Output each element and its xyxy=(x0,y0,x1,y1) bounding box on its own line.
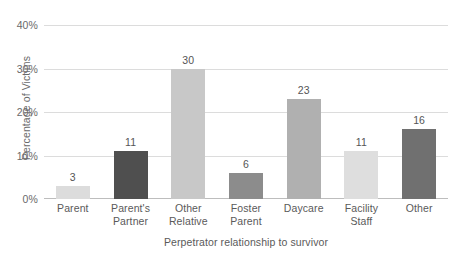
bar-group: 6 xyxy=(217,25,275,199)
bar-value-label: 30 xyxy=(182,54,194,66)
bar[interactable] xyxy=(402,129,436,199)
x-axis-title: Perpetrator relationship to survivor xyxy=(44,236,448,248)
y-axis-tick-label: 30% xyxy=(17,63,38,75)
bar[interactable] xyxy=(229,173,263,199)
bar-value-label: 23 xyxy=(298,84,310,96)
x-axis-tick-label: Foster Parent xyxy=(217,202,275,228)
y-axis-tick-labels: 0%10%20%30%40% xyxy=(0,0,44,262)
y-axis-tick-label: 0% xyxy=(23,193,38,205)
bar[interactable] xyxy=(171,69,205,200)
x-axis-tick-label: Facility Staff xyxy=(333,202,391,228)
x-axis-tick-labels: ParentParent's PartnerOther RelativeFost… xyxy=(44,202,448,234)
bar-chart: Percentage of Victims 0%10%20%30%40% 311… xyxy=(0,0,468,262)
bar-group: 23 xyxy=(275,25,333,199)
bar-value-label: 3 xyxy=(70,171,76,183)
y-axis-tick-label: 40% xyxy=(17,19,38,31)
x-axis-tick-label: Parent's Partner xyxy=(102,202,160,228)
y-axis-tick-label: 20% xyxy=(17,106,38,118)
x-axis-tick-label: Other xyxy=(390,202,448,215)
bar-group: 11 xyxy=(333,25,391,199)
bar-value-label: 6 xyxy=(243,158,249,170)
bar-value-label: 11 xyxy=(356,136,367,148)
x-axis-tick-label: Parent xyxy=(44,202,102,215)
bar-value-label: 11 xyxy=(125,136,136,148)
bar-group: 11 xyxy=(102,25,160,199)
bar-value-label: 16 xyxy=(413,114,425,126)
bar-group: 16 xyxy=(390,25,448,199)
bar[interactable] xyxy=(344,151,378,199)
x-axis-tick-label: Other Relative xyxy=(159,202,217,228)
bar[interactable] xyxy=(114,151,148,199)
bar-group: 30 xyxy=(159,25,217,199)
bar[interactable] xyxy=(287,99,321,199)
x-axis-tick-label: Daycare xyxy=(275,202,333,215)
y-axis-tick-label: 10% xyxy=(17,150,38,162)
bar[interactable] xyxy=(56,186,90,199)
bar-series: 311306231116 xyxy=(44,25,448,199)
bar-group: 3 xyxy=(44,25,102,199)
